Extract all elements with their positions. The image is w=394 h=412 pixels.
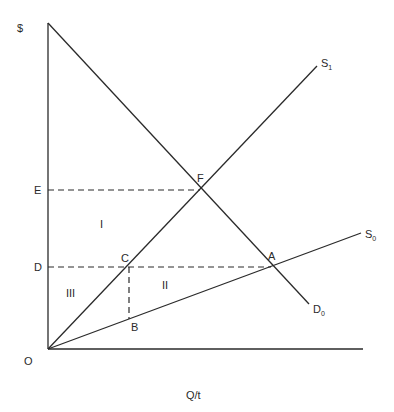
price-label-d: D xyxy=(34,261,42,273)
point-label-b: B xyxy=(131,321,138,333)
price-label-e: E xyxy=(34,184,41,196)
curve-label-s1: S1 xyxy=(321,57,332,71)
x-axis-label: Q/t xyxy=(186,389,201,401)
curve-label-s0: S0 xyxy=(365,228,376,242)
point-label-f: F xyxy=(197,172,204,184)
region-label-i: I xyxy=(100,218,103,230)
curve-label-d0: D0 xyxy=(313,303,325,317)
supply-curve-s1 xyxy=(48,66,317,349)
region-label-ii: II xyxy=(162,279,168,291)
y-axis-label: $ xyxy=(17,22,23,34)
point-label-c: C xyxy=(121,252,129,264)
point-label-a: A xyxy=(268,250,276,262)
supply-demand-diagram: $ Q/t O E D F C A B I II III S1 S0 D0 xyxy=(0,0,394,412)
region-label-iii: III xyxy=(66,287,75,299)
supply-curve-s0 xyxy=(48,233,361,349)
origin-label: O xyxy=(24,355,33,367)
